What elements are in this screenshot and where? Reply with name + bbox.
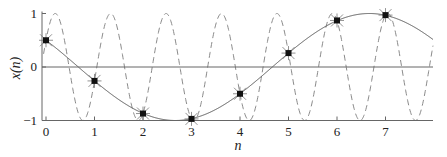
x-tick-label: 2 [140,124,147,139]
y-axis-label: x(n) [8,56,24,80]
sample-marker [136,107,150,121]
y-tick-label: −1 [23,113,37,128]
marker-square [189,116,195,122]
tick-labels: 01234567−101 [23,6,389,140]
sample-marker [330,13,344,27]
y-tick-label: 1 [31,6,38,21]
marker-square [237,91,243,97]
marker-square [286,50,292,56]
y-tick-label: 0 [31,59,38,74]
sample-marker [88,74,102,88]
x-tick-label: 6 [334,124,341,139]
x-tick-label: 5 [285,124,292,139]
sample-marker [233,87,247,101]
x-axis-label: n [235,138,242,153]
x-tick-label: 3 [188,124,195,139]
marker-square [140,111,146,117]
sample-marker [379,8,393,22]
x-tick-label: 1 [91,124,98,139]
marker-square [43,37,49,43]
x-tick-label: 4 [237,124,244,139]
chart-canvas: 01234567−101 n x(n) [0,0,447,157]
x-tick-label: 7 [382,124,389,139]
marker-square [334,17,340,23]
marker-square [383,12,389,18]
sample-marker [39,33,53,47]
x-tick-label: 0 [43,124,50,139]
marker-square [92,78,98,84]
sample-marker [282,46,296,60]
